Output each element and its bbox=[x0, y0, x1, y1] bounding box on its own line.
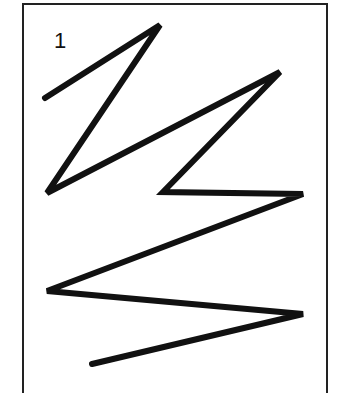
zigzag-polyline bbox=[45, 25, 303, 364]
